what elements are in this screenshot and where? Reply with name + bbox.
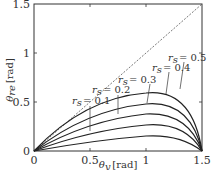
x-axis-label: θy[rad] bbox=[99, 159, 138, 170]
y-tick-0.5: 0.5 bbox=[13, 96, 31, 109]
annotation-rs-0.4: rs= 0.4 bbox=[152, 62, 190, 75]
curve-rs-0.3 bbox=[34, 114, 202, 151]
y-tick-1: 1 bbox=[23, 47, 30, 60]
x-tick-1: 1 bbox=[143, 154, 150, 167]
x-tick-0.5: 0.5 bbox=[81, 154, 99, 167]
x-tick-1.5: 1.5 bbox=[193, 154, 211, 167]
annotation-rs-0.3: rs= 0.3 bbox=[118, 74, 156, 87]
y-axis-label: θre[rad] bbox=[4, 58, 17, 102]
y-tick-0: 0 bbox=[23, 145, 30, 158]
chart: 0 0.5 1 1.5 0 0.5 1 1.5 θy[rad] θre[rad]… bbox=[0, 0, 216, 170]
annotations: rs= 0.1 rs= 0.2 rs= 0.3 rs= 0.4 rs= 0.5 bbox=[72, 52, 206, 108]
x-tick-0: 0 bbox=[31, 154, 38, 167]
y-tick-1.5: 1.5 bbox=[13, 0, 31, 11]
annotation-rs-0.1: rs= 0.1 bbox=[72, 95, 110, 108]
